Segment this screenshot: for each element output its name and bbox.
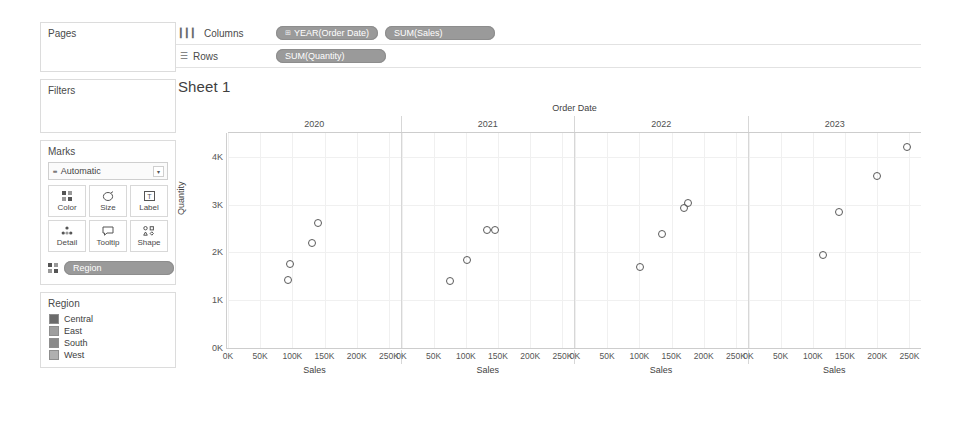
rows-shelf[interactable]: ☰ Rows SUM(Quantity) [176, 45, 921, 68]
gridline-horizontal [228, 205, 401, 206]
columns-shelf[interactable]: ▎▎▎ Columns ⊞YEAR(Order Date) SUM(Sales) [176, 22, 921, 45]
data-point[interactable] [636, 263, 644, 271]
data-point[interactable] [446, 277, 454, 285]
x-tick-label: 150K [315, 351, 335, 361]
marks-detail-button[interactable]: Detail [48, 220, 86, 252]
panel-2022[interactable] [574, 133, 748, 348]
legend-item[interactable]: West [41, 349, 175, 361]
gridline-horizontal [575, 205, 748, 206]
x-tick-group-2023: 0K50K100K150K200K250K [748, 350, 922, 364]
data-point[interactable] [873, 172, 881, 180]
data-point[interactable] [903, 143, 911, 151]
year-header-2020[interactable]: 2020 [228, 116, 401, 132]
data-point[interactable] [308, 239, 316, 247]
x-tick-label: 150K [662, 351, 682, 361]
gridline-vertical [813, 133, 814, 348]
gridline-horizontal [575, 157, 748, 158]
marks-label-button[interactable]: T Label [130, 185, 168, 217]
legend-label: East [64, 326, 82, 336]
marks-size-button[interactable]: Size [89, 185, 127, 217]
columns-icon: ▎▎▎ [180, 28, 198, 38]
year-header-2022[interactable]: 2022 [574, 116, 748, 132]
x-tick-label: 0K [396, 351, 406, 361]
y-axis-title: Quantity [176, 181, 186, 215]
pill-year-order-date-text: YEAR(Order Date) [294, 28, 369, 38]
gridline-vertical [228, 133, 229, 348]
legend-label: Central [64, 314, 93, 324]
legend-item[interactable]: East [41, 325, 175, 337]
size-icon [102, 190, 114, 202]
data-point[interactable] [483, 226, 491, 234]
data-point[interactable] [463, 256, 471, 264]
x-tick-label: 0K [570, 351, 580, 361]
filters-card[interactable]: Filters [40, 79, 176, 133]
gridline-vertical [562, 133, 563, 348]
color-icon [62, 190, 73, 202]
x-tick-label: 200K [867, 351, 887, 361]
pages-title: Pages [41, 23, 175, 43]
year-header-2021[interactable]: 2021 [401, 116, 575, 132]
gridline-vertical [781, 133, 782, 348]
marks-region-pill[interactable]: Region [64, 261, 174, 275]
panel-2023[interactable] [748, 133, 922, 348]
gridline-vertical [530, 133, 531, 348]
data-point[interactable] [286, 260, 294, 268]
columns-shelf-label: ▎▎▎ Columns [176, 28, 258, 39]
column-header-title: Order Date [228, 103, 921, 113]
y-tick-label: 3K [212, 200, 223, 210]
marks-tooltip-button[interactable]: Tooltip [89, 220, 127, 252]
data-point[interactable] [284, 276, 292, 284]
gridline-vertical [845, 133, 846, 348]
marks-title: Marks [41, 141, 175, 161]
region-legend-title: Region [41, 293, 175, 313]
data-point[interactable] [314, 219, 322, 227]
gridline-vertical [357, 133, 358, 348]
x-tick-label: 0K [223, 351, 233, 361]
hierarchy-expand-icon[interactable]: ⊞ [285, 29, 291, 37]
panel-2021[interactable] [401, 133, 575, 348]
data-point[interactable] [819, 251, 827, 259]
worksheet-area: Sheet 1 Order Date 2020202120222023 Quan… [176, 78, 921, 403]
gridline-vertical [639, 133, 640, 348]
left-sidebar: Pages Filters Marks ▪▪ Automatic ▾ Color [40, 22, 176, 375]
data-point[interactable] [658, 230, 666, 238]
column-header: Order Date 2020202120222023 [228, 103, 921, 133]
pill-year-order-date[interactable]: ⊞YEAR(Order Date) [276, 26, 378, 40]
y-tick-label: 2K [212, 247, 223, 257]
legend-item[interactable]: South [41, 337, 175, 349]
data-point[interactable] [684, 199, 692, 207]
pages-card[interactable]: Pages [40, 22, 176, 72]
tableau-worksheet: Pages Filters Marks ▪▪ Automatic ▾ Color [0, 0, 961, 435]
marks-buttons: Color Size T Label [48, 185, 168, 252]
data-point[interactable] [835, 208, 843, 216]
x-tick-label: 100K [803, 351, 823, 361]
panel-2020[interactable] [228, 133, 401, 348]
page-title: Sheet 1 [176, 78, 921, 95]
mark-type-dropdown[interactable]: ▪▪ Automatic ▾ [48, 162, 168, 180]
year-header-2023[interactable]: 2023 [748, 116, 922, 132]
x-axis-title-2020: Sales [228, 365, 401, 379]
x-axis-title-2023: Sales [748, 365, 921, 379]
marks-shape-button[interactable]: Shape [130, 220, 168, 252]
pill-sum-sales[interactable]: SUM(Sales) [385, 26, 495, 40]
legend-item[interactable]: Central [41, 313, 175, 325]
data-point[interactable] [491, 226, 499, 234]
marks-color-shelf: Region [48, 259, 168, 277]
y-tick-label: 1K [212, 295, 223, 305]
pill-sum-quantity[interactable]: SUM(Quantity) [276, 49, 386, 63]
gridline-horizontal [749, 252, 922, 253]
chevron-down-icon[interactable]: ▾ [153, 166, 164, 177]
x-tick-group-2020: 0K50K100K150K200K250K [228, 350, 401, 364]
legend-swatch [49, 338, 59, 348]
marks-color-button[interactable]: Color [48, 185, 86, 217]
x-axis-title-2022: Sales [575, 365, 748, 379]
gridline-vertical [749, 133, 750, 348]
x-axis-ticks: 0K50K100K150K200K250K0K50K100K150K200K25… [228, 350, 921, 364]
filters-title: Filters [41, 80, 175, 100]
gridline-vertical [704, 133, 705, 348]
x-tick-label: 200K [347, 351, 367, 361]
marks-tooltip-label: Tooltip [96, 238, 119, 247]
gridline-horizontal [749, 300, 922, 301]
gridline-horizontal [228, 157, 401, 158]
marks-size-label: Size [100, 203, 116, 212]
